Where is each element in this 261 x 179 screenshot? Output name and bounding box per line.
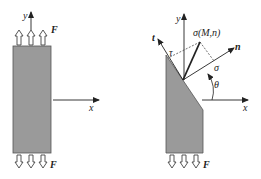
angle-label: θ bbox=[214, 79, 219, 90]
cut-body bbox=[166, 55, 203, 153]
force-label-bottom: F bbox=[49, 159, 57, 170]
angle-arc bbox=[208, 74, 213, 100]
left-figure: y F x F bbox=[13, 10, 99, 170]
normal-projection bbox=[200, 42, 214, 61]
tension-arrows-bottom bbox=[15, 155, 47, 168]
right-figure: y t n σ(M,n) τ σ x θ F bbox=[152, 13, 248, 170]
bar-body bbox=[13, 46, 51, 153]
t-axis-label: t bbox=[152, 32, 156, 43]
normal-stress-label: σ bbox=[214, 62, 220, 73]
x-axis-label: x bbox=[88, 102, 94, 113]
tension-arrows-top bbox=[15, 30, 47, 45]
tension-arrows-bottom bbox=[168, 155, 200, 168]
shear-stress-label: τ bbox=[169, 47, 173, 58]
n-axis-label: n bbox=[235, 41, 241, 52]
y-axis-label: y bbox=[175, 13, 181, 24]
force-label-top: F bbox=[50, 24, 58, 35]
stress-vector-label: σ(M,n) bbox=[193, 27, 221, 39]
y-axis-label: y bbox=[22, 10, 28, 21]
x-axis-label: x bbox=[242, 102, 248, 113]
force-label-bottom: F bbox=[202, 159, 210, 170]
diagram-canvas: y F x F y t n σ(M,n) τ σ x bbox=[0, 0, 261, 179]
